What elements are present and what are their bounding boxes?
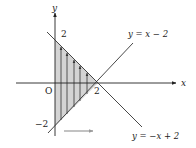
- origin-label: O: [45, 86, 52, 96]
- tick-label-x-2: 2: [94, 86, 100, 96]
- tick-label-y-2: 2: [61, 29, 67, 39]
- label-line-y-equals-x-minus-2: y = x − 2: [127, 29, 168, 39]
- x-axis-label: x: [181, 78, 186, 88]
- y-axis-label: y: [51, 3, 58, 13]
- label-line-y-equals-neg-x-plus-2: y = −x + 2: [131, 131, 179, 141]
- tick-label-y-neg-2: −2: [35, 119, 48, 129]
- integration-region-diagram: y x O 2 2 −2 y = x − 2 y = −x + 2: [0, 0, 196, 148]
